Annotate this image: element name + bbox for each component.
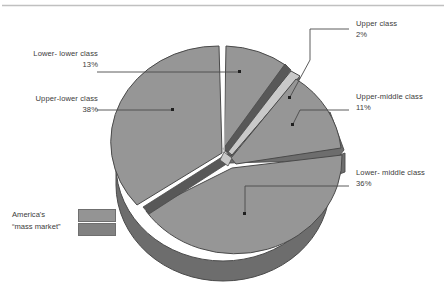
label-lower-lower-name: Lower- lower class xyxy=(33,49,98,58)
dot-lower-middle xyxy=(243,212,246,215)
label-lower-middle-name: Lower- middle class xyxy=(356,168,425,177)
label-upper-middle-pct: 11% xyxy=(356,103,423,114)
legend-line-2: “mass market” xyxy=(12,221,70,233)
label-upper-middle-class: Upper-middle class 11% xyxy=(356,92,423,113)
label-lower-lower-class: Lower- lower class 13% xyxy=(8,49,98,70)
label-upper-pct: 2% xyxy=(356,30,397,41)
dot-upper xyxy=(288,96,291,99)
pie-chart-canvas xyxy=(0,0,446,296)
label-upper-middle-name: Upper-middle class xyxy=(356,92,423,101)
legend-text: America's “mass market” xyxy=(12,209,70,232)
pie-chart-figure: Lower- lower class 13% Upper-lower class… xyxy=(0,0,446,296)
label-lower-lower-pct: 13% xyxy=(8,60,98,71)
legend-line-1: America's xyxy=(12,209,70,221)
dot-lower-lower xyxy=(238,70,241,73)
pie-3d-group xyxy=(111,46,345,281)
dot-upper-middle xyxy=(291,123,294,126)
label-lower-middle-class: Lower- middle class 36% xyxy=(356,168,425,189)
label-upper-name: Upper class xyxy=(356,19,397,28)
legend-swatch-bottom xyxy=(78,223,116,236)
label-upper-lower-pct: 38% xyxy=(8,105,98,116)
label-upper-lower-class: Upper-lower class 38% xyxy=(8,94,98,115)
legend-swatch-top xyxy=(78,209,116,222)
label-lower-middle-pct: 36% xyxy=(356,179,425,190)
label-upper-class: Upper class 2% xyxy=(356,19,397,40)
label-upper-lower-name: Upper-lower class xyxy=(36,94,98,103)
dot-upper-lower xyxy=(171,108,174,111)
